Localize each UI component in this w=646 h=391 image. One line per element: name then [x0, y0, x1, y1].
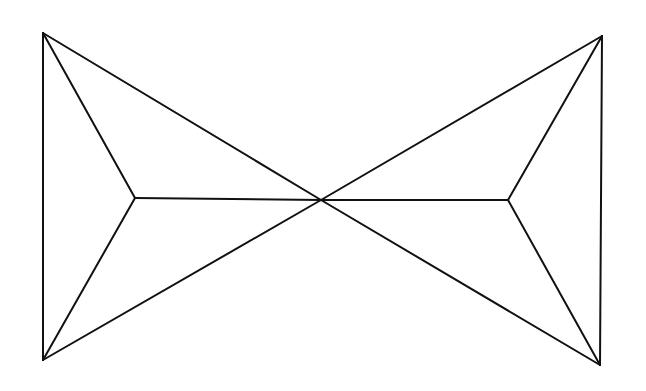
edge-C-TR: [321, 36, 602, 200]
diagram-edges: [43, 33, 602, 365]
edge-TL-ML: [43, 33, 135, 198]
edge-ML-C: [135, 198, 321, 200]
edge-BR-MR: [508, 200, 600, 365]
edge-TL-C: [43, 33, 321, 200]
edge-C-BR: [321, 200, 600, 365]
edge-BL-C: [43, 200, 321, 360]
edge-BL-ML: [43, 198, 135, 360]
edge-TR-BR: [600, 36, 602, 365]
edge-TR-MR: [508, 36, 602, 200]
bowtie-diagram: [0, 0, 646, 391]
